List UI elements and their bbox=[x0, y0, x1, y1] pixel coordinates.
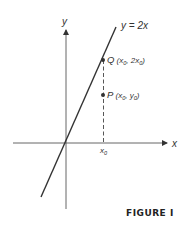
y-axis-label: y bbox=[61, 16, 68, 27]
point-p bbox=[101, 93, 105, 97]
point-q bbox=[101, 58, 105, 62]
x-axis-label: x bbox=[171, 138, 178, 149]
line-y-equals-2x bbox=[41, 27, 116, 197]
point-p-label: P (x0, y0) bbox=[107, 89, 140, 101]
equation-label: y = 2x bbox=[120, 20, 149, 31]
x0-tick-label: x0 bbox=[99, 146, 108, 156]
point-q-label: Q (x0, 2x0) bbox=[107, 54, 145, 66]
figure-canvas: y x y = 2x Q (x0, 2x0) P (x0, y0) x0 FIG… bbox=[0, 0, 187, 226]
figure-caption: FIGURE I bbox=[126, 208, 174, 218]
